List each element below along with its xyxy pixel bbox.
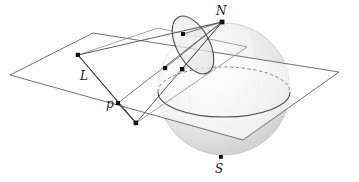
label-line-L: L (80, 70, 88, 82)
point-great-circle-upper (181, 32, 185, 36)
point-north-pole (220, 20, 225, 25)
point-p (116, 101, 120, 105)
label-south-pole: S (215, 163, 223, 175)
point-L-vertex (76, 53, 80, 57)
point-south-pole (219, 155, 223, 159)
label-north-pole: N (216, 5, 227, 17)
point-plane-intersection (134, 121, 139, 126)
point-great-circle-lower (180, 67, 184, 71)
label-point-p: p (106, 98, 114, 110)
diagram-canvas (0, 0, 359, 182)
point-great-circle-left (163, 66, 167, 70)
stereographic-projection-figure: N S L p (0, 0, 359, 182)
